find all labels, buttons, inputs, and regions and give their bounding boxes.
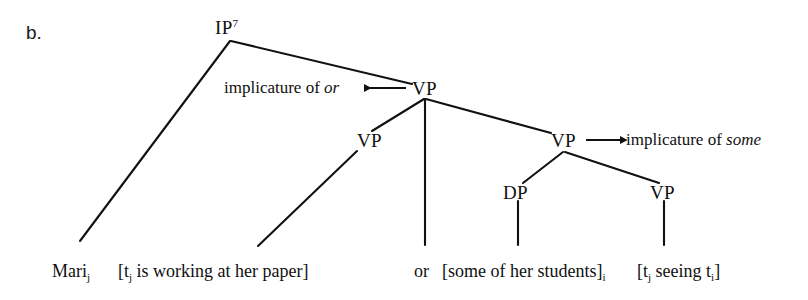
- leaf-vp-text-close: ]: [714, 261, 720, 281]
- leaf-vp-text-subscript-two: i: [711, 271, 714, 283]
- leaf-vp-text-mid: seeing t: [651, 261, 711, 281]
- figure-item-label: b.: [26, 23, 42, 42]
- leaf-clause-one: [tj is working at her paper]: [118, 262, 309, 280]
- leaf-dp-text-subscript: i: [602, 271, 605, 283]
- node-vp-left: VP: [357, 131, 382, 150]
- leaf-clause-one-subscript: j: [129, 271, 132, 283]
- leaf-vp-text: [tj seeing ti]: [637, 262, 720, 280]
- syntax-tree-figure: b. IP7 VP VP VP DP VP implicature of or …: [0, 0, 808, 300]
- annotation-some-implicature: implicature of some: [626, 131, 761, 148]
- branch-vpright-to-dp: [523, 152, 563, 183]
- node-vp-right: VP: [551, 131, 576, 150]
- leaf-subject-text: Mari: [52, 261, 87, 281]
- branch-vptop-to-vpright: [426, 99, 551, 133]
- leaf-dp-text-body: [some of her students]: [442, 261, 602, 281]
- leaf-conjunction: or: [414, 262, 429, 280]
- annotation-or-implicature: implicature of or: [224, 79, 339, 96]
- node-ip: IP7: [215, 18, 238, 37]
- leaf-vp-text-open: [t: [637, 261, 648, 281]
- node-ip-label: IP: [215, 17, 233, 38]
- annotation-or-prefix: implicature of: [224, 78, 324, 97]
- node-vp-top: VP: [412, 79, 437, 98]
- branch-ip-to-subject: [80, 41, 230, 241]
- branch-vpright-to-vpinner: [565, 152, 659, 183]
- branch-vptop-to-vpleft: [372, 99, 424, 131]
- leaf-subject: Marij: [52, 262, 90, 280]
- node-vp-inner: VP: [650, 183, 675, 202]
- leaf-dp-text: [some of her students]i: [442, 262, 606, 280]
- leaf-vp-text-subscript-one: j: [648, 271, 651, 283]
- node-dp: DP: [503, 183, 528, 202]
- annotation-or-italic: or: [324, 78, 339, 97]
- node-ip-superscript: 7: [233, 17, 239, 29]
- leaf-clause-one-open: [t: [118, 261, 129, 281]
- leaf-clause-one-body: is working at her paper]: [132, 261, 308, 281]
- tree-branches: [0, 0, 808, 300]
- branch-vpleft-to-clause: [258, 151, 357, 246]
- leaf-subject-subscript: j: [87, 271, 90, 283]
- annotation-some-italic: some: [726, 130, 761, 149]
- annotation-some-prefix: implicature of: [626, 130, 726, 149]
